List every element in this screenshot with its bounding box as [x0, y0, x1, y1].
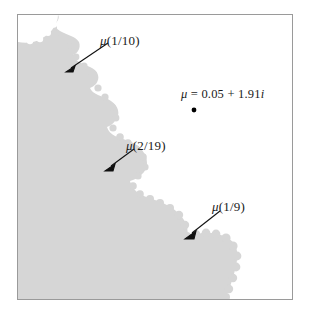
label-mu-1-9-symbol: μ	[212, 199, 219, 214]
label-mu-1-10-symbol: μ	[100, 33, 107, 48]
fractal-figure: μ(1/10) μ(2/19) μ(1/9) μ = 0.05 + 1.91i	[0, 0, 311, 314]
label-mu-1-9: μ(1/9)	[212, 199, 245, 215]
label-mu-2-19-arg: (2/19)	[133, 138, 166, 153]
parameter-point-marker	[192, 108, 197, 113]
label-mu-2-19-symbol: μ	[126, 138, 133, 153]
label-parameter-imaginary-unit: i	[261, 87, 265, 101]
label-parameter-value: μ = 0.05 + 1.91i	[181, 87, 264, 102]
label-mu-1-9-arg: (1/9)	[219, 199, 245, 214]
label-mu-1-10: μ(1/10)	[100, 33, 140, 49]
label-mu-1-10-arg: (1/10)	[107, 33, 140, 48]
fractal-plot-canvas	[0, 0, 311, 314]
label-parameter-equation: = 0.05 + 1.91	[187, 87, 260, 101]
label-mu-2-19: μ(2/19)	[126, 138, 166, 154]
